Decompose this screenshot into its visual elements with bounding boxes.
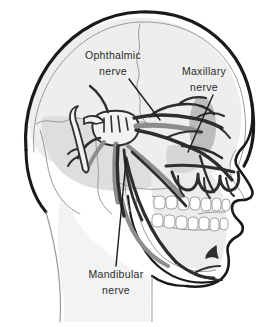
tooth-upper [212, 198, 221, 211]
tooth-lower [188, 217, 198, 230]
label-ophthalmic-line2: nerve [99, 65, 127, 77]
tooth-lower [164, 215, 175, 228]
tooth-upper [201, 198, 211, 211]
tooth-upper [166, 196, 177, 209]
label-maxillary-line1: Maxillary [182, 65, 227, 77]
occiput-outline [26, 150, 46, 212]
tooth-lower [210, 218, 219, 231]
tooth-upper [222, 199, 230, 211]
label-maxillary-line2: nerve [190, 81, 218, 93]
tooth-lower [220, 218, 228, 230]
tooth-upper [190, 197, 200, 210]
tooth-lower [199, 217, 209, 230]
tooth-lower [176, 216, 187, 229]
neck-shade [58, 196, 150, 322]
chin-outline [152, 276, 186, 286]
ganglion-fiber [111, 116, 112, 132]
label-ophthalmic-line1: Ophthalmic [85, 49, 141, 61]
skull-illustration-svg: Ophthalmic nerve Maxillary nerve Mandibu… [0, 0, 278, 327]
label-mandibular-line1: Mandibular [89, 268, 144, 280]
label-mandibular-line2: nerve [102, 284, 130, 296]
trigeminal-ganglion [92, 111, 138, 146]
tooth-upper [154, 196, 165, 209]
tooth-lower [152, 214, 163, 227]
trigeminal-nerve-figure: Ophthalmic nerve Maxillary nerve Mandibu… [0, 0, 278, 327]
